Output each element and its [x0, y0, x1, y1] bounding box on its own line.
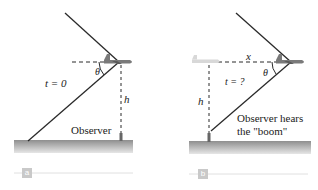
height-label-a: h — [124, 93, 130, 105]
panel-tag-a: a — [22, 168, 32, 178]
observer-icon — [120, 133, 123, 141]
height-label-b: h — [198, 95, 204, 107]
angle-arc-b — [272, 62, 276, 74]
airplane-icon — [276, 54, 304, 64]
time-label-b: t = ? — [225, 76, 245, 87]
shock-cone-upper-b — [236, 13, 291, 62]
ghost-airplane-icon — [192, 55, 220, 63]
angle-label-a: θ — [95, 66, 100, 77]
shock-cone-upper-a — [65, 13, 119, 62]
panel-tag-b: b — [198, 169, 208, 179]
observer-icon — [208, 133, 211, 142]
ground-a — [14, 140, 133, 153]
airplane-icon — [104, 54, 132, 64]
panel-b — [189, 13, 311, 174]
observer-label-b-line2: the "boom" — [237, 125, 287, 137]
ground-b — [189, 141, 311, 154]
distance-label-b: x — [246, 50, 251, 62]
observer-label-b-line1: Observer hears — [237, 112, 303, 124]
sonic-boom-diagram — [0, 0, 318, 190]
panel-a — [14, 13, 133, 173]
angle-label-b: θ — [263, 67, 268, 78]
time-label-a: t = 0 — [45, 77, 66, 89]
observer-label-a: Observer — [71, 124, 111, 136]
